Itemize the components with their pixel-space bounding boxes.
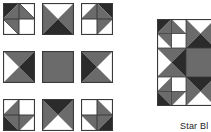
block-caption: Star Bl: [180, 121, 208, 131]
unit-center: [42, 51, 74, 83]
four-patch-icon: [3, 99, 35, 131]
unit-edge-bottom: [42, 99, 74, 131]
unit-corner-bottom-left: [3, 99, 35, 131]
four-patch-icon: [81, 3, 113, 35]
four-patch-icon: [3, 3, 35, 35]
hourglass-icon: [3, 51, 35, 83]
solid-square-icon: [42, 51, 74, 83]
assembled-star-block: [157, 19, 211, 106]
unit-corner-top-right: [81, 3, 113, 35]
unit-corner-top-left: [3, 3, 35, 35]
unit-edge-left: [3, 51, 35, 83]
unit-edge-right: [81, 51, 113, 83]
unit-corner-bottom-right: [81, 99, 113, 131]
hourglass-icon: [42, 3, 74, 35]
hourglass-icon: [81, 51, 113, 83]
hourglass-icon: [42, 99, 74, 131]
four-patch-icon: [81, 99, 113, 131]
unit-edge-top: [42, 3, 74, 35]
star-block-icon: [157, 19, 211, 106]
